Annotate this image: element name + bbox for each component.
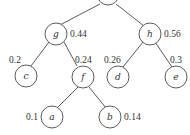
node-e-weight: 0.3: [170, 55, 182, 65]
node-a: a 0.1: [26, 106, 63, 128]
node-a-label: a: [49, 112, 54, 122]
node-c: c 0.2: [9, 55, 37, 87]
edge-root-h: [116, 4, 144, 26]
node-h-label: h: [147, 29, 153, 39]
edge-f-b: [89, 87, 106, 108]
node-h-weight: 0.56: [164, 29, 181, 39]
node-c-weight: 0.2: [9, 55, 21, 65]
node-c-label: c: [23, 71, 28, 81]
edge-g-c: [31, 42, 49, 66]
node-h: h 0.56: [139, 23, 181, 45]
edge-h-d: [123, 42, 143, 67]
node-f-weight: 0.24: [75, 55, 92, 65]
node-e-label: e: [173, 72, 178, 82]
tree-edges: [31, 4, 172, 108]
node-a-weight: 0.1: [26, 112, 38, 122]
edge-root-g: [58, 4, 100, 26]
node-d-weight: 0.26: [104, 55, 121, 65]
edge-f-a: [57, 87, 78, 108]
node-f: f 0.24: [72, 55, 94, 88]
node-b-weight: 0.14: [124, 112, 141, 122]
node-g: g 0.44: [45, 23, 87, 45]
node-d-label: d: [115, 72, 121, 82]
node-g-weight: 0.44: [70, 29, 87, 39]
node-b-label: b: [107, 112, 113, 122]
huffman-tree-diagram: 1 g 0.44 h 0.56 c 0.2 f 0.24 d 0.26 e 0.…: [0, 0, 190, 135]
node-g-label: g: [53, 29, 59, 39]
node-root: 1: [97, 0, 127, 5]
node-b: b 0.14: [99, 106, 141, 128]
node-e: e 0.3: [165, 55, 187, 88]
node-root-weight: 1: [122, 0, 127, 2]
node-d: d 0.26: [104, 55, 129, 88]
